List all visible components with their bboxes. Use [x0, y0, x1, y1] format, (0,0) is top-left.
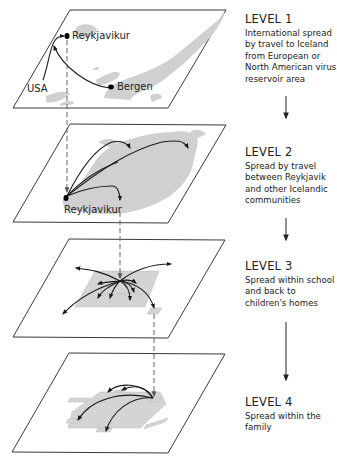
level-3-title: LEVEL 3: [245, 259, 337, 273]
usa-label: USA: [27, 83, 48, 94]
level-2-description: Spread by travel between Reykjavik and o…: [245, 161, 337, 207]
level-1-description: International spread by travel to Icelan…: [245, 28, 337, 85]
level-1-text: LEVEL 1 International spread by travel t…: [245, 12, 337, 85]
level-4-title: LEVEL 4: [245, 395, 337, 409]
level-2-panel: Reykjavikur: [13, 124, 226, 223]
level-2-title: LEVEL 2: [245, 145, 337, 159]
level-3-text: LEVEL 3 Spread within school and back to…: [245, 259, 337, 309]
level-2-text: LEVEL 2 Spread by travel between Reykjav…: [245, 145, 337, 207]
reykjavik-marker: [65, 33, 70, 39]
level-3-description: Spread within school and back to childre…: [245, 275, 337, 309]
level-1-panel: Reykjavikur Bergen USA: [13, 10, 226, 108]
bergen-label: Bergen: [117, 81, 153, 92]
reykjavik-label: Reykjavikur: [72, 30, 131, 41]
level-3-panel: [13, 239, 225, 338]
level-4-panel: [12, 353, 225, 453]
bergen-marker: [108, 85, 114, 90]
reykjavik-marker-l2: [64, 195, 69, 201]
level-1-title: LEVEL 1: [245, 12, 337, 26]
level-4-text: LEVEL 4 Spread within the family: [245, 395, 337, 434]
reykjavik-label-l2: Reykjavikur: [64, 204, 123, 215]
level-4-description: Spread within the family: [245, 411, 337, 434]
